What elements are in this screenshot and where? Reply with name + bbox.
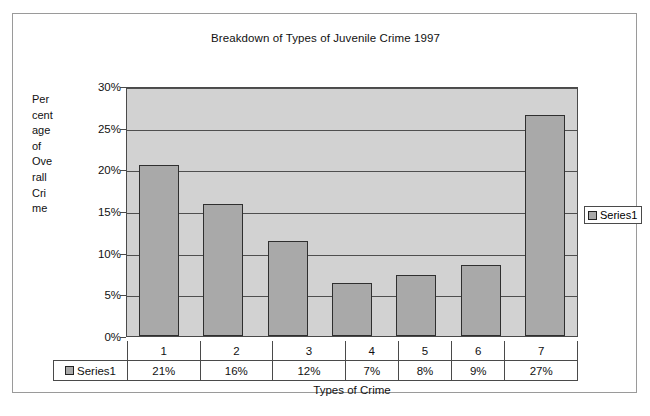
y-axis-title-line: Cri — [32, 186, 66, 202]
y-axis-tick-mark — [120, 337, 126, 338]
table-category-header: 4 — [345, 341, 398, 361]
y-axis-tick-mark — [120, 170, 126, 171]
y-axis-tick-mark — [120, 87, 126, 88]
table-value-cell: 12% — [273, 361, 346, 381]
table-category-header: 6 — [452, 341, 505, 361]
x-axis-title: Types of Crime — [126, 384, 578, 396]
bar-slot — [127, 88, 191, 336]
y-axis-tick-label: 25% — [75, 123, 121, 135]
bar — [332, 283, 372, 336]
y-axis-title-line: cent — [32, 108, 66, 124]
table-corner-cell — [54, 341, 128, 361]
bar — [268, 241, 308, 336]
y-axis-title-line: of — [32, 139, 66, 155]
y-axis-tick-mark — [120, 212, 126, 213]
scanned-page-frame: Breakdown of Types of Juvenile Crime 199… — [12, 13, 637, 393]
y-axis-tick-mark — [120, 254, 126, 255]
table-series-key: Series1 — [54, 361, 128, 381]
data-table: 1234567Series121%16%12%7%8%9%27% — [53, 341, 578, 381]
y-axis-title-line: age — [32, 123, 66, 139]
table-category-header: 5 — [398, 341, 451, 361]
table-series-label: Series1 — [77, 365, 116, 377]
table-value-cell: 9% — [452, 361, 505, 381]
y-axis-title-line: Per — [32, 92, 66, 108]
y-axis-tick-labels: 0%5%10%15%20%25%30% — [75, 74, 121, 350]
bar-slot — [191, 88, 255, 336]
table-category-header: 2 — [200, 341, 273, 361]
y-axis-tick-label: 30% — [75, 81, 121, 93]
y-axis-tick-label: 20% — [75, 164, 121, 176]
y-axis-tick-label: 15% — [75, 206, 121, 218]
legend-swatch-icon — [588, 211, 597, 220]
table-value-cell: 8% — [398, 361, 451, 381]
table-category-header: 7 — [505, 341, 578, 361]
bar-slot — [513, 88, 577, 336]
bar-slot — [384, 88, 448, 336]
table-category-header: 3 — [273, 341, 346, 361]
y-axis-tick-mark — [120, 295, 126, 296]
chart-legend: Series1 — [584, 206, 642, 224]
bar-slot — [448, 88, 512, 336]
bar — [203, 204, 243, 336]
chart-title: Breakdown of Types of Juvenile Crime 199… — [13, 32, 638, 44]
y-axis-tick-mark — [120, 129, 126, 130]
y-axis-title-line: rall — [32, 170, 66, 186]
table-value-cell: 27% — [505, 361, 578, 381]
table-value-cell: 7% — [345, 361, 398, 381]
y-axis-tick-label: 5% — [75, 289, 121, 301]
table-row: 1234567 — [54, 341, 578, 361]
bar-slot — [320, 88, 384, 336]
legend-label-series1: Series1 — [600, 209, 637, 221]
legend-swatch-icon — [65, 366, 74, 375]
bar-slot — [256, 88, 320, 336]
table-row: Series121%16%12%7%8%9%27% — [54, 361, 578, 381]
bar — [396, 275, 436, 336]
y-axis-tick-label: 10% — [75, 248, 121, 260]
y-axis-title-line: Ove — [32, 154, 66, 170]
bar — [525, 115, 565, 336]
y-axis-title-line: me — [32, 201, 66, 217]
table-value-cell: 16% — [200, 361, 273, 381]
y-axis-title: PercentageofOverallCrime — [32, 92, 66, 217]
table-category-header: 1 — [128, 341, 201, 361]
bar — [461, 265, 501, 336]
bar-series-Series1 — [127, 88, 577, 336]
plot-area — [126, 87, 578, 337]
bar — [139, 165, 179, 336]
table-value-cell: 21% — [128, 361, 201, 381]
